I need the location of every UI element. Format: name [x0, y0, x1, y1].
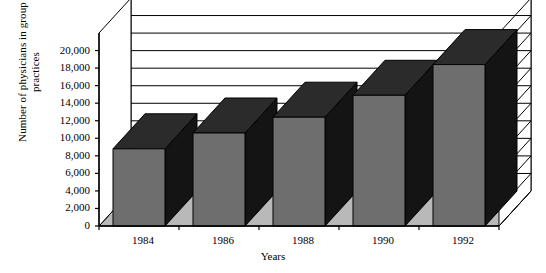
bar-front-face	[113, 149, 165, 226]
chart-plot-area	[0, 0, 546, 273]
bar-front-face	[353, 95, 405, 226]
x-axis-tick-label: 1992	[433, 234, 493, 246]
x-axis-title: Years	[0, 250, 546, 262]
bar-front-face	[433, 65, 485, 226]
bar-1992	[433, 30, 517, 226]
bar-1988	[273, 82, 357, 226]
bar-front-face	[273, 117, 325, 226]
x-axis-tick-label: 1986	[193, 234, 253, 246]
chart-figure: Number of physicians in group practices …	[0, 0, 546, 273]
x-axis-tick-label: 1984	[113, 234, 173, 246]
bar-front-face	[193, 133, 245, 226]
x-axis-tick-label: 1988	[273, 234, 333, 246]
x-axis-tick-label: 1990	[353, 234, 413, 246]
bar-1990	[353, 60, 437, 226]
